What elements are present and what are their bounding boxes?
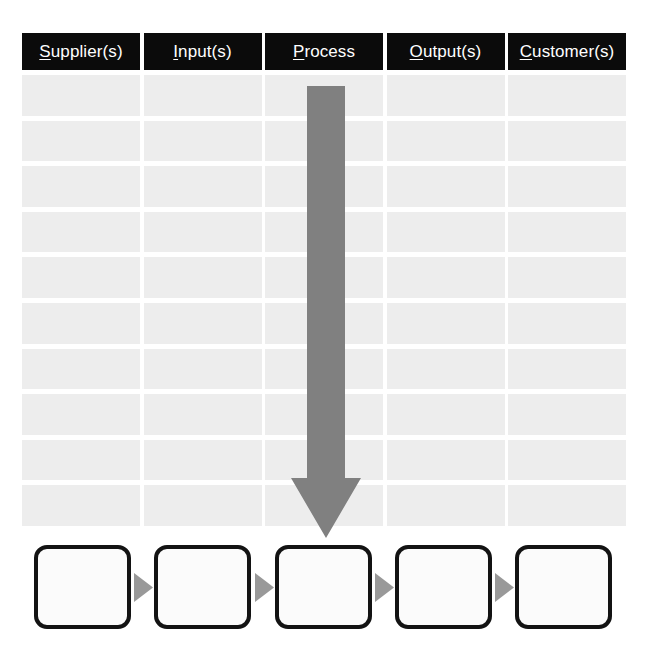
sipoc-grid: Supplier(s) Input(s) (22, 33, 626, 526)
table-row[interactable] (265, 303, 383, 344)
sipoc-column-customer: Customer(s) (508, 33, 626, 526)
table-row[interactable] (387, 349, 505, 390)
table-row[interactable] (265, 349, 383, 390)
column-header-initial-output: O (410, 42, 423, 61)
column-body-customer (508, 75, 626, 526)
table-row[interactable] (508, 349, 626, 390)
table-row[interactable] (22, 349, 140, 390)
table-row[interactable] (265, 394, 383, 435)
process-step-box-4[interactable] (395, 545, 492, 629)
table-row[interactable] (387, 485, 505, 526)
table-row[interactable] (22, 121, 140, 162)
table-row[interactable] (508, 75, 626, 116)
column-body-input (144, 75, 262, 526)
process-steps-row (34, 545, 612, 629)
table-row[interactable] (22, 75, 140, 116)
table-row[interactable] (265, 257, 383, 298)
table-row[interactable] (387, 75, 505, 116)
table-row[interactable] (387, 212, 505, 253)
table-row[interactable] (387, 394, 505, 435)
table-row[interactable] (508, 485, 626, 526)
table-row[interactable] (144, 166, 262, 207)
right-triangle-icon (255, 573, 274, 602)
column-header-supplier: Supplier(s) (22, 33, 140, 70)
table-row[interactable] (22, 394, 140, 435)
table-row[interactable] (387, 303, 505, 344)
table-row[interactable] (144, 257, 262, 298)
column-header-initial-process: P (293, 42, 304, 61)
column-body-process (265, 75, 383, 526)
table-row[interactable] (508, 121, 626, 162)
column-header-rest-supplier: upplier(s) (51, 42, 123, 61)
table-row[interactable] (508, 394, 626, 435)
column-header-output: Output(s) (387, 33, 505, 70)
table-row[interactable] (508, 303, 626, 344)
column-header-process: Process (265, 33, 383, 70)
table-row[interactable] (22, 440, 140, 481)
table-row[interactable] (265, 485, 383, 526)
table-row[interactable] (144, 485, 262, 526)
table-row[interactable] (22, 212, 140, 253)
sipoc-diagram: Supplier(s) Input(s) (0, 0, 646, 656)
table-row[interactable] (508, 166, 626, 207)
column-header-initial-supplier: S (39, 42, 50, 61)
process-step-box-5[interactable] (515, 545, 612, 629)
table-row[interactable] (265, 212, 383, 253)
table-row[interactable] (508, 212, 626, 253)
table-row[interactable] (265, 75, 383, 116)
table-row[interactable] (144, 394, 262, 435)
column-body-output (387, 75, 505, 526)
right-triangle-icon (134, 573, 153, 602)
table-row[interactable] (387, 121, 505, 162)
column-header-input: Input(s) (144, 33, 262, 70)
table-row[interactable] (387, 166, 505, 207)
right-triangle-icon (375, 573, 394, 602)
right-triangle-icon (495, 573, 514, 602)
column-header-rest-customer: ustomer(s) (532, 42, 614, 61)
table-row[interactable] (387, 257, 505, 298)
table-row[interactable] (144, 303, 262, 344)
process-step-box-3[interactable] (275, 545, 372, 629)
table-row[interactable] (265, 440, 383, 481)
sipoc-column-input: Input(s) (144, 33, 262, 526)
sipoc-column-supplier: Supplier(s) (22, 33, 140, 526)
column-header-rest-process: rocess (304, 42, 355, 61)
column-header-customer: Customer(s) (508, 33, 626, 70)
table-row[interactable] (387, 440, 505, 481)
table-row[interactable] (22, 257, 140, 298)
table-row[interactable] (265, 121, 383, 162)
table-row[interactable] (508, 257, 626, 298)
table-row[interactable] (144, 440, 262, 481)
sipoc-column-process: Process (265, 33, 383, 526)
column-body-supplier (22, 75, 140, 526)
table-row[interactable] (144, 75, 262, 116)
table-row[interactable] (508, 440, 626, 481)
table-row[interactable] (144, 121, 262, 162)
process-step-box-1[interactable] (34, 545, 131, 629)
table-row[interactable] (22, 485, 140, 526)
table-row[interactable] (144, 212, 262, 253)
sipoc-column-output: Output(s) (387, 33, 505, 526)
table-row[interactable] (22, 166, 140, 207)
table-row[interactable] (265, 166, 383, 207)
column-header-rest-input: nput(s) (178, 42, 232, 61)
table-row[interactable] (144, 349, 262, 390)
column-header-initial-customer: C (520, 42, 532, 61)
table-row[interactable] (22, 303, 140, 344)
process-step-box-2[interactable] (154, 545, 251, 629)
column-header-rest-output: utput(s) (423, 42, 481, 61)
